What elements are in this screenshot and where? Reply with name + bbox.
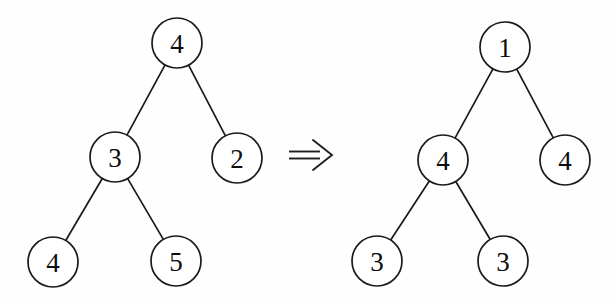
tree-edge: [66, 179, 103, 241]
tree-edge: [128, 179, 164, 240]
tree-node: 2: [212, 133, 262, 183]
binary-tree-transformation-figure: 43245 14433: [0, 0, 614, 305]
tree-edge: [517, 69, 554, 138]
node-circle: [480, 22, 530, 72]
double-right-arrow-icon: [289, 140, 332, 170]
arrow-head: [313, 140, 332, 170]
tree-node: 4: [28, 237, 78, 287]
tree-node: 4: [418, 135, 468, 185]
tree-edge: [391, 181, 430, 240]
node-circle: [352, 236, 402, 286]
node-circle: [151, 236, 201, 286]
tree-edge: [127, 65, 165, 135]
tree-node: 3: [90, 132, 140, 182]
node-circle: [478, 236, 528, 286]
tree-node: 4: [152, 18, 202, 68]
tree-node: 4: [540, 135, 590, 185]
tree-node: 5: [151, 236, 201, 286]
tree-node: 3: [352, 236, 402, 286]
figure-canvas: 43245 14433: [0, 0, 614, 305]
node-circle: [90, 132, 140, 182]
result-tree-edges: [391, 69, 554, 240]
result-tree-nodes: 14433: [352, 22, 590, 286]
source-tree-nodes: 43245: [28, 18, 262, 287]
tree-edge: [456, 181, 490, 239]
tree-edge: [455, 69, 493, 138]
node-circle: [212, 133, 262, 183]
tree-node: 1: [480, 22, 530, 72]
node-circle: [540, 135, 590, 185]
node-circle: [152, 18, 202, 68]
tree-node: 3: [478, 236, 528, 286]
node-circle: [418, 135, 468, 185]
node-circle: [28, 237, 78, 287]
tree-edge: [189, 65, 226, 136]
